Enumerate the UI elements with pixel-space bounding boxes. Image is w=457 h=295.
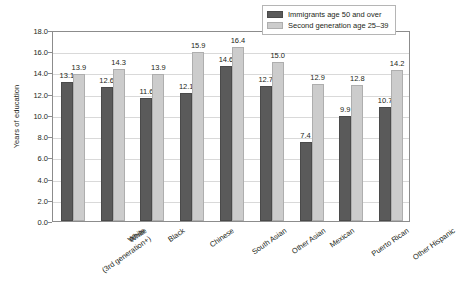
x-tick-label: Mexican	[328, 226, 356, 250]
x-tick-label: Black	[167, 226, 187, 244]
bar-value-label: 13.9	[151, 63, 166, 72]
bar-group: 14.616.4	[212, 32, 252, 221]
legend-swatch	[267, 22, 283, 29]
bar-pair: 12.614.3	[93, 32, 133, 221]
bar-value-label: 16.4	[231, 36, 246, 45]
x-tick-label: South Asian	[250, 226, 288, 257]
bar[interactable]: 12.6	[101, 87, 113, 221]
y-tick-label: 18.0	[4, 27, 48, 36]
bar-group: 12.614.3	[93, 32, 133, 221]
bar-value-label: 13.9	[72, 63, 87, 72]
bar-pair: 12.715.0	[252, 32, 292, 221]
bar[interactable]: 13.9	[73, 74, 85, 221]
bar-pair: 13.113.9	[53, 32, 93, 221]
legend-label: Immigrants age 50 and over	[288, 10, 381, 19]
bar[interactable]: 13.1	[61, 82, 73, 221]
bar[interactable]: 15.9	[192, 52, 204, 221]
y-tick-label: 12.0	[4, 90, 48, 99]
y-tick-label: 14.0	[4, 69, 48, 78]
bar-pair: 7.412.9	[292, 32, 332, 221]
bar[interactable]: 14.6	[220, 66, 232, 221]
y-tick-label: 0.0	[4, 218, 48, 227]
bar[interactable]: 15.0	[272, 62, 284, 221]
bar-value-label: 12.8	[350, 74, 365, 83]
y-tick-label: 2.0	[4, 196, 48, 205]
bar-value-label: 11.6	[139, 87, 153, 96]
legend-item[interactable]: Second generation age 25–39	[267, 20, 389, 31]
bar-pair: 12.115.9	[172, 32, 212, 221]
x-tick-label: Chinese	[208, 226, 236, 250]
bar[interactable]: 10.7	[379, 107, 391, 221]
bar[interactable]: 12.9	[312, 84, 324, 221]
plot-area: 13.113.912.614.311.613.912.115.914.616.4…	[52, 31, 410, 222]
bar[interactable]: 7.4	[300, 142, 312, 221]
bar-value-label: 15.9	[191, 41, 206, 50]
x-tick-label-line: Puerto Rican	[370, 226, 411, 258]
bar-value-label: 14.2	[390, 59, 405, 68]
y-tick-label: 4.0	[4, 175, 48, 184]
y-tick-label: 16.0	[4, 48, 48, 57]
bar-group: 7.412.9	[292, 32, 332, 221]
bar-value-label: 12.9	[310, 73, 325, 82]
y-tick-label: 8.0	[4, 133, 48, 142]
bar[interactable]: 13.9	[152, 74, 164, 221]
y-tick-mark	[48, 222, 52, 223]
y-tick-label: 10.0	[4, 111, 48, 120]
y-tick-label: 6.0	[4, 154, 48, 163]
x-tick-label: Other Hispanic	[411, 226, 457, 262]
bar[interactable]: 12.7	[260, 86, 272, 221]
bar[interactable]: 16.4	[232, 47, 244, 221]
bar-group: 9.912.8	[331, 32, 371, 221]
x-tick-label: Other Asian	[290, 226, 328, 256]
bar-pair: 10.714.2	[371, 32, 411, 221]
bar-group: 10.714.2	[371, 32, 411, 221]
bar[interactable]: 12.8	[351, 85, 363, 221]
bar-pair: 14.616.4	[212, 32, 252, 221]
x-tick-label-line: Mexican	[328, 226, 356, 249]
x-tick-label-line: South Asian	[250, 226, 288, 256]
x-tick-label-line: Black	[167, 226, 187, 244]
x-tick-label-line: Other Hispanic	[411, 226, 457, 262]
bar-pair: 11.613.9	[133, 32, 173, 221]
bar[interactable]: 11.6	[140, 98, 152, 221]
x-tick-label: Puerto Rican	[370, 226, 411, 259]
x-tick-label-line: Chinese	[208, 226, 236, 249]
bar-group: 11.613.9	[133, 32, 173, 221]
bar[interactable]: 14.3	[113, 69, 125, 221]
bar-value-label: 9.9	[340, 105, 350, 114]
bar[interactable]: 12.1	[180, 93, 192, 221]
x-tick-label-line: (3rd generation+)	[100, 234, 153, 275]
legend-item[interactable]: Immigrants age 50 and over	[267, 9, 389, 20]
legend-swatch	[267, 11, 283, 18]
bar-value-label: 14.3	[111, 58, 126, 67]
x-tick-label-line: Other Asian	[290, 226, 327, 256]
bar[interactable]: 9.9	[339, 116, 351, 221]
bar-group: 12.715.0	[252, 32, 292, 221]
bar-pair: 9.912.8	[331, 32, 371, 221]
bar-value-label: 15.0	[270, 51, 285, 60]
chart-legend: Immigrants age 50 and overSecond generat…	[262, 5, 396, 35]
bar-group: 12.115.9	[172, 32, 212, 221]
bar-value-label: 7.4	[300, 131, 310, 140]
bar[interactable]: 14.2	[391, 70, 403, 221]
bar-group: 13.113.9	[53, 32, 93, 221]
legend-label: Second generation age 25–39	[288, 21, 389, 30]
